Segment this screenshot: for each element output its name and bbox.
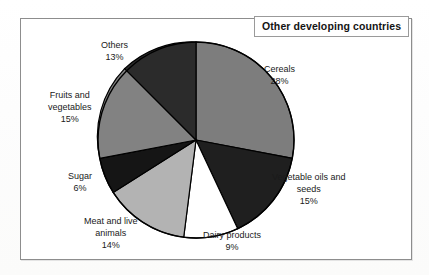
label-meat-name-1: Meat and live — [84, 216, 138, 226]
label-cereals-name: Cereals — [264, 64, 295, 74]
label-vegetable-oils: Vegetable oils and seeds 15% — [272, 172, 346, 208]
label-sugar-name: Sugar — [68, 171, 92, 181]
label-cereals: Cereals 28% — [264, 64, 295, 88]
label-meat-name-2: animals — [84, 228, 138, 240]
label-sugar-value: 6% — [68, 183, 92, 195]
label-dairy-products: Dairy products 9% — [203, 230, 261, 254]
label-cereals-value: 28% — [264, 76, 295, 88]
label-fruits-and-vegetables: Fruits and vegetables 15% — [48, 90, 92, 126]
label-dairy-products-name: Dairy products — [203, 230, 261, 240]
label-vegetable-oils-value: 15% — [272, 196, 346, 208]
label-vegetable-oils-name-1: Vegetable oils and — [272, 172, 346, 182]
label-others: Others 13% — [101, 40, 128, 64]
label-others-value: 13% — [101, 52, 128, 64]
label-dairy-products-value: 9% — [203, 242, 261, 254]
label-vegetable-oils-name-2: seeds — [272, 184, 346, 196]
label-meat-value: 14% — [84, 240, 138, 252]
chart-title: Other developing countries — [254, 16, 409, 37]
pie-slice-cereals[interactable] — [196, 42, 294, 158]
label-meat: Meat and live animals 14% — [84, 216, 138, 252]
label-sugar: Sugar 6% — [68, 171, 92, 195]
label-fruits-value: 15% — [48, 114, 92, 126]
label-fruits-name-1: Fruits and — [50, 90, 90, 100]
label-fruits-name-2: vegetables — [48, 102, 92, 114]
label-others-name: Others — [101, 40, 128, 50]
